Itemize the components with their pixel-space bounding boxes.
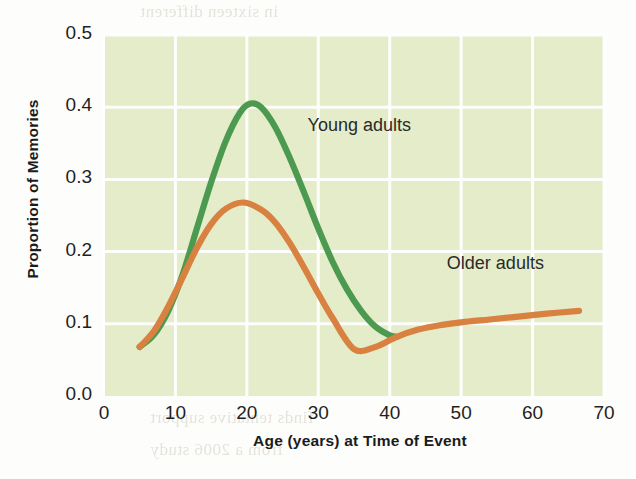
memory-proportion-chart-figure: in sixteen different ionnaire administer… xyxy=(0,0,636,479)
x-axis-tick-label: 10 xyxy=(152,402,198,424)
series-label-young-adults: Young adults xyxy=(308,115,411,136)
x-axis-tick-label: 60 xyxy=(510,402,556,424)
x-axis-title: Age (years) at Time of Event xyxy=(150,432,570,450)
x-axis-tick-label: 0 xyxy=(81,402,127,424)
y-axis-tick-label: 0.3 xyxy=(46,166,92,188)
y-axis-tick-label: 0.2 xyxy=(46,239,92,261)
x-axis-tick-label: 30 xyxy=(295,402,341,424)
x-axis-tick-label: 40 xyxy=(367,402,413,424)
x-axis-tick-label: 20 xyxy=(224,402,270,424)
plot-background xyxy=(104,35,604,396)
series-label-older-adults: Older adults xyxy=(447,253,544,274)
y-axis-tick-label: 0.5 xyxy=(46,22,92,44)
y-axis-title: Proportion of Memories xyxy=(24,94,42,284)
x-axis-tick-label: 50 xyxy=(438,402,484,424)
x-axis-tick-label: 70 xyxy=(581,402,627,424)
y-axis-tick-label: 0.1 xyxy=(46,311,92,333)
y-axis-tick-label: 0.4 xyxy=(46,94,92,116)
